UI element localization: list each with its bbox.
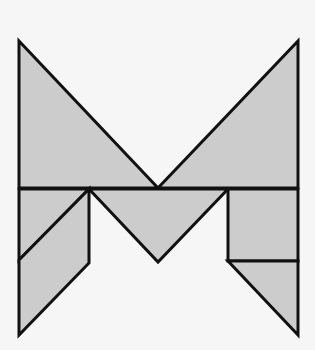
medium-triangle-middle [89, 189, 228, 262]
large-triangle-right [158, 41, 298, 188]
large-triangle-left [19, 41, 158, 188]
small-triangle-right [228, 261, 298, 335]
tangram-m-figure [0, 0, 315, 350]
square-right [228, 189, 298, 261]
